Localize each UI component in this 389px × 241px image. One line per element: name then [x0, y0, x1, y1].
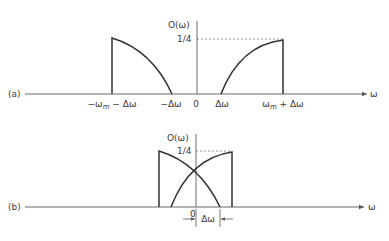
- panel-a-y-axis-label: O(ω): [168, 20, 190, 30]
- panel-a-tick-neg-wm-minus-dw: −ωm − Δω: [88, 99, 137, 111]
- panel-a-tick-neg-dw: −Δω: [160, 99, 181, 109]
- panel-b-tick-zero: 0: [190, 209, 196, 219]
- dimension-label: Δω: [201, 214, 215, 224]
- panel-b-y-tick-quarter: 1/4: [177, 146, 192, 156]
- panel-b-x-axis-label: ω: [368, 202, 376, 212]
- panel-b-y-axis-label: O(ω): [167, 133, 189, 143]
- panel-a: (a) ω O(ω) 1/4 −ωm − Δω −Δω 0 Δω ωm + Δω: [8, 20, 378, 111]
- panel-b: (b) ω O(ω) 1/4 0 Δω: [8, 133, 376, 227]
- panel-a-y-tick-quarter: 1/4: [177, 34, 192, 44]
- panel-a-label: (a): [8, 89, 21, 99]
- diagram-figure: (a) ω O(ω) 1/4 −ωm − Δω −Δω 0 Δω ωm + Δω…: [0, 0, 389, 241]
- panel-a-tick-zero: 0: [193, 99, 199, 109]
- panel-a-negative-band-curve: [112, 38, 172, 94]
- panel-a-tick-wm-plus-dw: ωm + Δω: [262, 99, 303, 111]
- panel-b-label: (b): [8, 202, 21, 212]
- panel-a-positive-band-curve: [221, 40, 283, 94]
- panel-b-shifted-negative-band-curve: [159, 151, 220, 207]
- panel-a-tick-dw: Δω: [215, 99, 229, 109]
- panel-a-x-axis-label: ω: [370, 89, 378, 99]
